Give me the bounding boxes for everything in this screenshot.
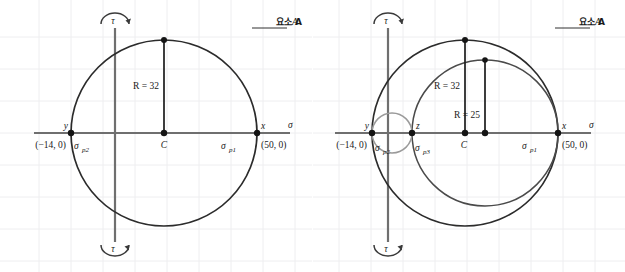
- svg-text:p1: p1: [228, 146, 236, 154]
- point-x: [555, 130, 561, 136]
- right-mohr-diagram: τ τ R = 32 R = 25 C y (−14, 0) σ p2 z σ: [313, 0, 625, 272]
- point-x: [254, 130, 260, 136]
- radius-label-32: R = 32: [133, 81, 159, 91]
- tau-arrow-bottom: [101, 245, 129, 256]
- sigma-axis-label: σ: [589, 120, 594, 130]
- tau-label-top: τ: [384, 16, 388, 26]
- sigma-axis-label: σ: [288, 120, 293, 130]
- element-letter-left: A: [291, 17, 298, 27]
- tau-arrow-top: [101, 13, 131, 24]
- tau-arrow-top: [374, 13, 404, 24]
- tau-arrow-bottom: [374, 245, 402, 256]
- svg-text:σ: σ: [74, 141, 79, 151]
- sigma-p1-label: σ p1: [221, 141, 236, 154]
- element-label-right: 요소 A: [579, 17, 605, 27]
- svg-text:p2: p2: [81, 146, 90, 154]
- center-point-C: [161, 130, 167, 136]
- tau-label-bottom: τ: [111, 244, 115, 254]
- radius-label-25: R = 25: [454, 110, 480, 120]
- svg-text:p3: p3: [422, 148, 431, 156]
- coord-left: (−14, 0): [35, 140, 66, 151]
- point-z: [409, 130, 415, 136]
- point-label-x: x: [260, 121, 266, 131]
- point-label-z: z: [415, 121, 420, 131]
- svg-text:σ: σ: [375, 143, 380, 153]
- center-point-medium: [482, 130, 488, 136]
- point-y: [369, 130, 375, 136]
- point-label-y: y: [63, 121, 69, 131]
- center-point-C: [462, 130, 468, 136]
- element-letter-right: A: [594, 17, 601, 27]
- sigma-p1-label: σ p1: [522, 141, 537, 154]
- left-mohr-circle-panel: τ τ R = 32 C y (−14, 0) σ p2 x (50, 0) σ: [0, 0, 312, 272]
- sigma-p2-label: σ p2: [74, 141, 90, 154]
- svg-text:σ: σ: [221, 141, 226, 151]
- center-label-C: C: [161, 140, 168, 150]
- radius-label-32: R = 32: [434, 81, 460, 91]
- svg-text:p1: p1: [529, 146, 537, 154]
- coord-left: (−14, 0): [336, 140, 367, 151]
- point-y: [68, 130, 74, 136]
- svg-text:σ: σ: [522, 141, 527, 151]
- element-label-left: 요소 A: [276, 17, 302, 27]
- figure-container: τ τ R = 32 C y (−14, 0) σ p2 x (50, 0) σ: [0, 0, 625, 272]
- max-shear-point: [161, 37, 167, 43]
- svg-text:p2: p2: [382, 148, 391, 156]
- sigma-p3-label: σ p3: [415, 143, 431, 156]
- right-mohr-circle-panel: τ τ R = 32 R = 25 C y (−14, 0) σ p2 z σ: [313, 0, 625, 272]
- left-mohr-diagram: τ τ R = 32 C y (−14, 0) σ p2 x (50, 0) σ: [0, 0, 312, 272]
- center-label-C: C: [461, 140, 468, 150]
- max-shear-point-large: [462, 37, 468, 43]
- coord-right: (50, 0): [261, 140, 286, 151]
- point-label-y: y: [364, 121, 370, 131]
- tau-label-top: τ: [111, 16, 115, 26]
- point-label-x: x: [561, 121, 567, 131]
- svg-text:σ: σ: [415, 143, 420, 153]
- max-shear-point-medium: [482, 57, 488, 63]
- tau-label-bottom: τ: [384, 244, 388, 254]
- coord-right: (50, 0): [562, 140, 587, 151]
